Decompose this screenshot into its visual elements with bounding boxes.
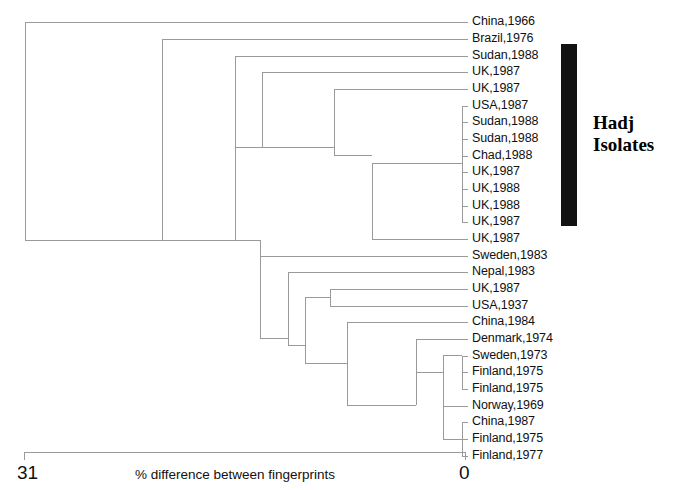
tip-label-12: UK,1987: [472, 215, 520, 228]
dendrogram-tree: [0, 0, 683, 490]
tip-label-1: Brazil,1976: [472, 32, 533, 45]
hadj-isolates-annotation: Hadj Isolates: [593, 112, 654, 156]
scale-axis: [24, 452, 465, 460]
tip-label-11: UK,1988: [472, 199, 520, 212]
hadj-annotation-line-1: Hadj: [593, 112, 654, 134]
hadj-isolates-bracket-bar: [561, 44, 577, 226]
dendrogram-figure: China,1966 Brazil,1976 Sudan,1988 UK,198…: [0, 0, 683, 490]
axis-tick-label-right: 0: [459, 462, 470, 484]
tip-label-13: UK,1987: [472, 232, 520, 245]
tip-label-15: Nepal,1983: [472, 265, 535, 278]
axis-caption: % difference between fingerprints: [135, 467, 335, 482]
tip-label-20: Sweden,1973: [472, 349, 547, 362]
tip-label-6: Sudan,1988: [472, 115, 538, 128]
hadj-annotation-line-2: Isolates: [593, 134, 654, 156]
tip-label-5: USA,1987: [472, 99, 528, 112]
tip-label-3: UK,1987: [472, 65, 520, 78]
tip-label-21: Finland,1975: [472, 365, 543, 378]
tip-label-25: Finland,1975: [472, 432, 543, 445]
tip-label-2: Sudan,1988: [472, 49, 538, 62]
tip-label-8: Chad,1988: [472, 149, 532, 162]
tip-label-19: Denmark,1974: [472, 332, 553, 345]
tip-label-24: China,1987: [472, 415, 535, 428]
tip-label-10: UK,1988: [472, 182, 520, 195]
tip-label-0: China,1966: [472, 15, 535, 28]
tip-label-16: UK,1987: [472, 282, 520, 295]
axis-tick-label-left: 31: [17, 462, 38, 484]
tip-label-22: Finland,1975: [472, 382, 543, 395]
tip-label-4: UK,1987: [472, 82, 520, 95]
tip-label-17: USA,1937: [472, 299, 528, 312]
tip-label-7: Sudan,1988: [472, 132, 538, 145]
tip-label-26: Finland,1977: [472, 449, 543, 462]
tip-label-18: China,1984: [472, 315, 535, 328]
tip-label-23: Norway,1969: [472, 399, 544, 412]
tip-label-14: Sweden,1983: [472, 249, 547, 262]
tip-label-9: UK,1987: [472, 165, 520, 178]
